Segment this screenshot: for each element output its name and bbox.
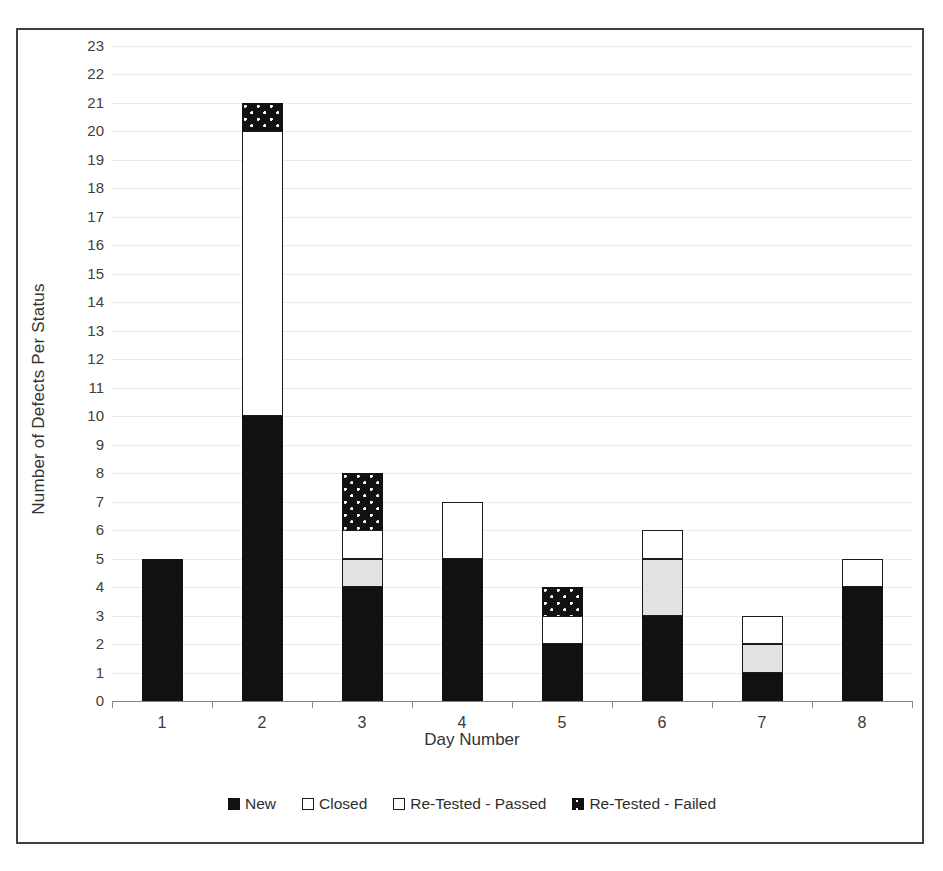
legend-item-label: Closed	[319, 795, 367, 813]
bar-segment[interactable]	[842, 559, 883, 587]
x-tick-mark	[612, 701, 613, 708]
y-tick-label: 2	[58, 635, 104, 652]
y-tick-label: 1	[58, 664, 104, 681]
y-tick-label: 5	[58, 550, 104, 567]
legend-item-label: New	[245, 795, 276, 813]
y-tick-label: 13	[58, 322, 104, 339]
gridline	[112, 160, 912, 161]
y-tick-label: 15	[58, 265, 104, 282]
bar-segment[interactable]	[242, 416, 283, 701]
y-tick-label: 14	[58, 293, 104, 310]
bar-segment[interactable]	[842, 587, 883, 701]
gridlines	[112, 46, 912, 701]
gridline	[112, 74, 912, 75]
x-tick-mark	[712, 701, 713, 708]
chart-legend: NewClosedRe-Tested - PassedRe-Tested - F…	[18, 795, 926, 813]
gridline	[112, 587, 912, 588]
legend-item[interactable]: Re-Tested - Passed	[393, 795, 546, 813]
y-tick-label: 20	[58, 122, 104, 139]
bar-segment[interactable]	[342, 473, 383, 530]
x-axis-line	[112, 701, 912, 702]
bar-group-day-3[interactable]	[342, 46, 383, 701]
legend-item[interactable]: Re-Tested - Failed	[572, 795, 716, 813]
bar-segment[interactable]	[542, 587, 583, 615]
x-tick-mark	[112, 701, 113, 708]
x-tick-mark	[312, 701, 313, 708]
legend-item-label: Re-Tested - Failed	[589, 795, 716, 813]
y-tick-label: 22	[58, 65, 104, 82]
bar-segment[interactable]	[442, 502, 483, 559]
y-axis-title: Number of Defects Per Status	[29, 149, 49, 649]
y-tick-label: 11	[58, 379, 104, 396]
gridline	[112, 473, 912, 474]
gridline	[112, 502, 912, 503]
y-tick-label: 12	[58, 350, 104, 367]
y-tick-label: 17	[58, 208, 104, 225]
bar-group-day-1[interactable]	[142, 46, 183, 701]
legend-swatch-icon	[302, 798, 314, 810]
legend-item-label: Re-Tested - Passed	[410, 795, 546, 813]
gridline	[112, 245, 912, 246]
bar-segment[interactable]	[742, 616, 783, 644]
y-tick-label: 18	[58, 179, 104, 196]
bar-segment[interactable]	[742, 644, 783, 672]
legend-swatch-icon	[393, 798, 405, 810]
bar-group-day-6[interactable]	[642, 46, 683, 701]
bar-segment[interactable]	[242, 103, 283, 131]
bar-group-day-5[interactable]	[542, 46, 583, 701]
x-tick-mark	[412, 701, 413, 708]
y-tick-label: 16	[58, 236, 104, 253]
y-tick-label: 8	[58, 464, 104, 481]
y-tick-label: 10	[58, 407, 104, 424]
gridline	[112, 530, 912, 531]
legend-item[interactable]: New	[228, 795, 276, 813]
bar-segment[interactable]	[342, 530, 383, 558]
y-tick-label: 19	[58, 151, 104, 168]
gridline	[112, 103, 912, 104]
gridline	[112, 188, 912, 189]
y-axis-tick-labels: 01234567891011121314151617181920212223	[58, 46, 104, 701]
y-tick-label: 7	[58, 493, 104, 510]
bar-segment[interactable]	[542, 644, 583, 701]
bar-segment[interactable]	[742, 673, 783, 701]
y-tick-label: 9	[58, 436, 104, 453]
x-tick-mark	[912, 701, 913, 708]
legend-swatch-icon	[228, 798, 240, 810]
gridline	[112, 644, 912, 645]
gridline	[112, 131, 912, 132]
gridline	[112, 416, 912, 417]
bar-group-day-2[interactable]	[242, 46, 283, 701]
bar-segment[interactable]	[342, 587, 383, 701]
gridline	[112, 274, 912, 275]
gridline	[112, 217, 912, 218]
x-tick-mark	[212, 701, 213, 708]
gridline	[112, 331, 912, 332]
gridline	[112, 359, 912, 360]
bar-group-day-7[interactable]	[742, 46, 783, 701]
x-axis-title: Day Number	[18, 730, 926, 750]
y-tick-label: 0	[58, 692, 104, 709]
bar-segment[interactable]	[442, 559, 483, 701]
bar-segment[interactable]	[642, 530, 683, 558]
gridline	[112, 388, 912, 389]
gridline	[112, 445, 912, 446]
gridline	[112, 559, 912, 560]
x-tick-mark	[512, 701, 513, 708]
x-tick-mark	[812, 701, 813, 708]
y-tick-label: 6	[58, 521, 104, 538]
bar-segment[interactable]	[642, 559, 683, 616]
bar-segment[interactable]	[642, 616, 683, 701]
bar-segment[interactable]	[342, 559, 383, 587]
gridline	[112, 302, 912, 303]
bar-segment[interactable]	[542, 616, 583, 644]
bar-group-day-4[interactable]	[442, 46, 483, 701]
legend-item[interactable]: Closed	[302, 795, 367, 813]
bar-group-day-8[interactable]	[842, 46, 883, 701]
legend-swatch-icon	[572, 798, 584, 810]
bar-segment[interactable]	[142, 559, 183, 701]
gridline	[112, 673, 912, 674]
gridline	[112, 616, 912, 617]
gridline	[112, 46, 912, 47]
y-tick-label: 4	[58, 578, 104, 595]
bar-segment[interactable]	[242, 131, 283, 416]
